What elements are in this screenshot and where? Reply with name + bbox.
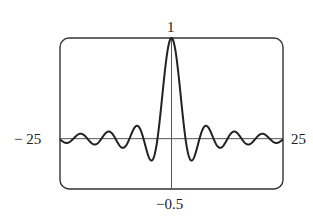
x-max-label: 25 bbox=[291, 132, 306, 147]
sinc-chart bbox=[0, 0, 313, 223]
x-min-label: − 25 bbox=[14, 132, 41, 147]
y-min-label: −0.5 bbox=[156, 197, 183, 212]
y-max-label: 1 bbox=[167, 20, 175, 35]
